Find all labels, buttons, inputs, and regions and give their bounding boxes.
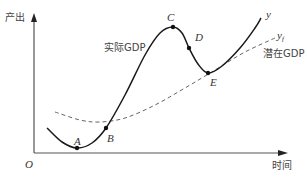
point-d-marker xyxy=(187,46,191,50)
actual-gdp-curve xyxy=(47,18,261,148)
point-e-label: E xyxy=(210,76,217,88)
point-c-marker xyxy=(171,25,175,29)
actual-gdp-label: 实际GDP xyxy=(104,42,145,54)
origin-label: O xyxy=(25,158,33,170)
potential-gdp-symbol: yf xyxy=(277,29,284,45)
point-a-label: A xyxy=(74,135,81,147)
point-b-label: B xyxy=(107,132,114,144)
x-axis-label: 时间 xyxy=(272,160,292,172)
y-axis-arrow-icon xyxy=(31,13,37,22)
potential-gdp-curve xyxy=(55,38,275,122)
point-e-marker xyxy=(206,71,210,75)
actual-gdp-symbol: y xyxy=(266,8,271,20)
diagram-canvas xyxy=(0,0,307,181)
yf-subscript: f xyxy=(282,35,284,43)
y-axis-label: 产出 xyxy=(5,12,25,24)
point-c-label: C xyxy=(167,11,174,23)
point-d-label: D xyxy=(195,31,203,43)
point-b-marker xyxy=(104,126,108,130)
x-axis-arrow-icon xyxy=(278,150,288,156)
potential-gdp-label: 潜在GDP xyxy=(263,48,304,60)
business-cycle-diagram: 产出 时间 O 实际GDP 潜在GDP y yf A B C D E xyxy=(0,0,307,181)
